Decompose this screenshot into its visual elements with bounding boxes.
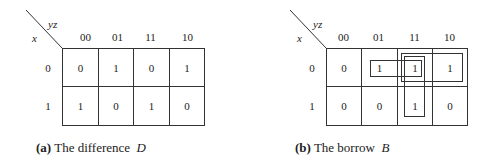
kmap-cell: 0 [170,87,204,125]
kmap-cell: 0 [433,87,467,125]
kmap-cell: 0 [99,87,134,125]
kmap-cell: 1 [134,87,170,125]
kmap-cell: 0 [63,49,99,87]
kmap-borrow: yz x 00 01 11 10 0 1 0 1 1 1 0 0 1 0 (b)… [246,0,492,164]
col-variable-label: yz [313,18,322,30]
col-header: 11 [133,31,168,43]
col-header: 10 [432,31,467,43]
row-header: 1 [42,100,54,112]
caption: (a) The difference D [36,140,146,156]
kmap-cell: 0 [362,87,398,125]
row-variable-label: x [32,32,37,44]
col-header: 00 [68,31,103,43]
kmap-cell: 1 [63,87,99,125]
caption-text: The difference [54,140,130,155]
col-header: 01 [100,31,135,43]
col-variable-label: yz [48,18,57,30]
caption: (b) The borrow B [295,140,389,156]
caption-tag: (a) [36,140,51,155]
kmap-difference: yz x 00 01 11 10 0 1 0 1 0 1 1 0 1 0 (a)… [0,0,246,164]
corner-diagonal [0,0,70,52]
kmap-cell: 0 [327,87,362,125]
row-header: 0 [42,62,54,74]
kmap-cell: 1 [170,49,204,87]
row-header: 1 [306,100,318,112]
row-variable-label: x [297,32,302,44]
caption-symbol: B [381,140,389,155]
col-header: 01 [361,31,396,43]
caption-text: The borrow [314,140,375,155]
kmap-cell: 0 [327,49,362,87]
caption-tag: (b) [295,140,311,155]
kmap-cell: 0 [134,49,170,87]
col-header: 10 [170,31,205,43]
row-header: 0 [306,62,318,74]
caption-symbol: D [137,140,146,155]
kmap-grid: 0 1 0 1 1 0 1 0 [62,48,205,126]
col-header: 11 [397,31,432,43]
group-rect-col-11 [404,56,425,117]
corner-diagonal [246,0,336,52]
kmap-cell: 1 [99,49,134,87]
col-header: 00 [326,31,361,43]
